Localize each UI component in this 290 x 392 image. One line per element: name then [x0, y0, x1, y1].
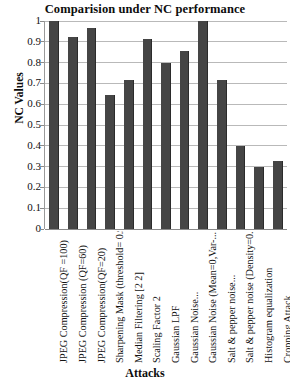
bar-chart: Comparision under NC performance NC Valu… — [0, 0, 290, 392]
x-tick-label: Gaussian Noise (Mean=0,Var-... — [207, 231, 219, 363]
x-tick-label: JPEG Compression(QF=20) — [96, 231, 108, 363]
y-tick-mark — [40, 125, 44, 126]
y-tick-mark — [40, 145, 44, 146]
x-axis-title: Attacks — [0, 366, 290, 381]
y-tick-label: 0.5 — [1, 119, 41, 130]
x-tick-label: Scaling Factor 2 — [151, 231, 163, 363]
y-tick-mark — [40, 166, 44, 167]
y-tick-label: 0.4 — [1, 140, 41, 151]
y-tick-mark — [40, 41, 44, 42]
bar — [198, 21, 208, 229]
bars-layer — [45, 21, 287, 229]
bar — [180, 51, 190, 229]
x-tick-label: Histogram equalization — [263, 231, 275, 363]
bar — [273, 161, 283, 229]
y-tick-mark — [40, 62, 44, 63]
bar — [236, 146, 246, 229]
chart-title: Comparision under NC performance — [0, 1, 290, 17]
y-tick-label: 0.2 — [1, 181, 41, 192]
bar — [68, 37, 78, 229]
y-tick-label: 0.9 — [1, 36, 41, 47]
y-tick-mark — [40, 21, 44, 22]
x-axis-ticks: JPEG Compression(QF =100)JPEG Compressio… — [44, 231, 287, 363]
y-tick-mark — [40, 83, 44, 84]
y-tick-mark — [40, 208, 44, 209]
plot-area — [44, 21, 287, 229]
bar — [254, 167, 264, 229]
y-tick-mark — [40, 104, 44, 105]
x-tick-label: JPEG Compression (QF=60) — [77, 231, 89, 363]
bar — [49, 21, 59, 229]
bar — [143, 39, 153, 229]
bar — [105, 95, 115, 229]
y-tick-label: 0.8 — [1, 57, 41, 68]
y-tick-label: 0.6 — [1, 98, 41, 109]
bar — [87, 28, 97, 229]
bar — [124, 80, 134, 229]
x-tick-label: Sharpening Mask (threshold= 0.9) — [114, 231, 126, 363]
y-tick-label: 0.1 — [1, 202, 41, 213]
y-tick-mark — [40, 187, 44, 188]
y-tick-label: 1 — [1, 15, 41, 26]
y-tick-label: 0.7 — [1, 77, 41, 88]
y-tick-label: 0.3 — [1, 161, 41, 172]
y-tick-label: 0 — [1, 223, 41, 234]
y-tick-mark — [40, 229, 44, 230]
x-tick-label: Cropping Attack — [282, 231, 290, 363]
bar — [161, 63, 171, 229]
x-tick-label: Gaussian LPF — [170, 231, 182, 363]
x-tick-label: Median Filtering [2 2] — [133, 231, 145, 363]
x-tick-label: Gaussian Noise... — [189, 231, 201, 363]
x-tick-label: Salt & pepper noise (Density=0.1) — [244, 231, 256, 363]
bar — [217, 80, 227, 229]
x-tick-label: Salt & pepper noise... — [226, 231, 238, 363]
x-tick-label: JPEG Compression(QF =100) — [58, 231, 70, 363]
